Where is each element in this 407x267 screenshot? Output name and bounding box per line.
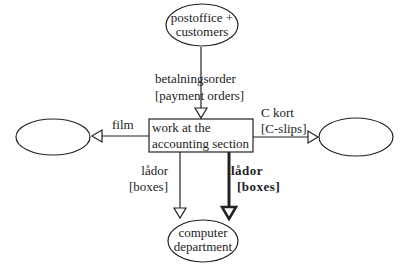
- source-label-line2: customers: [166, 25, 238, 39]
- boxes-bold-label-line2: [boxes]: [237, 180, 280, 194]
- boxes-bold-label-line1: lådor: [231, 164, 280, 178]
- boxes-thin-arrowhead-icon: [174, 208, 186, 218]
- process-label-line2: accounting section: [152, 137, 249, 151]
- left-sink-ellipse: [16, 119, 90, 155]
- payment-arrowhead-icon: [195, 108, 207, 118]
- cslips-flow-label: C kort [C-slips]: [261, 106, 307, 136]
- boxes-bold-flow-label: lådor [boxes]: [231, 164, 280, 194]
- boxes-thin-label-line1: lådor: [128, 164, 168, 178]
- right-sink-ellipse: [319, 118, 393, 156]
- cslips-label-line1: C kort: [261, 106, 307, 120]
- payment-label-line2: [payment orders]: [155, 89, 244, 103]
- cslips-arrowhead-icon: [308, 131, 318, 143]
- boxes-thin-label-line2: [boxes]: [128, 180, 168, 194]
- computer-label-line1: computer: [168, 226, 238, 240]
- payment-flow-label: betalningsorder [payment orders]: [155, 72, 244, 103]
- computer-label-line2: department: [168, 240, 238, 254]
- source-node-label: postoffice + customers: [166, 11, 238, 39]
- payment-label-line1: betalningsorder: [155, 72, 244, 86]
- film-flow-label: film: [112, 118, 134, 132]
- source-label-line1: postoffice +: [166, 11, 238, 25]
- process-label-line1: work at the: [152, 121, 249, 135]
- boxes-bold-arrowhead-icon: [222, 207, 236, 219]
- film-label-text: film: [112, 117, 134, 132]
- computer-node-label: computer department: [168, 226, 238, 254]
- boxes-thin-flow-label: lådor [boxes]: [128, 164, 168, 194]
- process-node-label: work at the accounting section: [152, 121, 249, 151]
- cslips-label-line2: [C-slips]: [261, 122, 307, 136]
- film-arrowhead-icon: [92, 130, 102, 142]
